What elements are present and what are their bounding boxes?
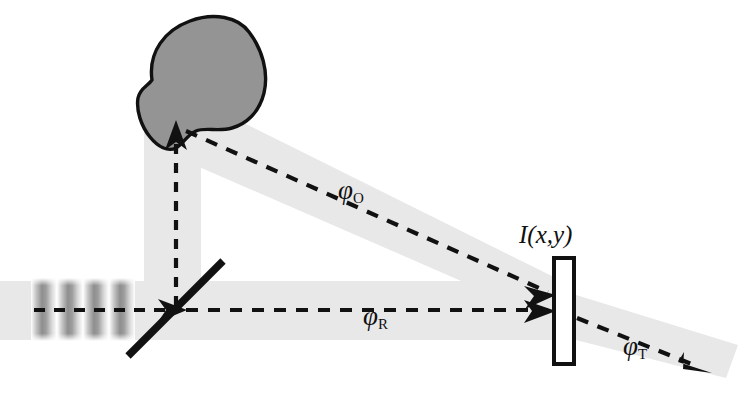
beam-transmitted-band <box>560 290 738 378</box>
ccd-detector[interactable] <box>554 258 574 364</box>
phi-subscript-reference: R <box>378 316 388 332</box>
label-object-wave: φO <box>338 177 364 206</box>
label-intensity: I(x,y) <box>519 222 572 247</box>
phi-subscript-object: O <box>353 190 364 206</box>
figure-canvas: φO φR φT I(x,y) <box>0 0 754 407</box>
phi-symbol-transmitted: φ <box>623 331 638 361</box>
phi-subscript-transmitted: T <box>638 346 647 362</box>
phi-symbol-object: φ <box>338 175 353 205</box>
phi-symbol-reference: φ <box>363 301 378 331</box>
label-reference-wave: φR <box>363 303 388 332</box>
label-transmitted-wave: φT <box>623 333 647 362</box>
